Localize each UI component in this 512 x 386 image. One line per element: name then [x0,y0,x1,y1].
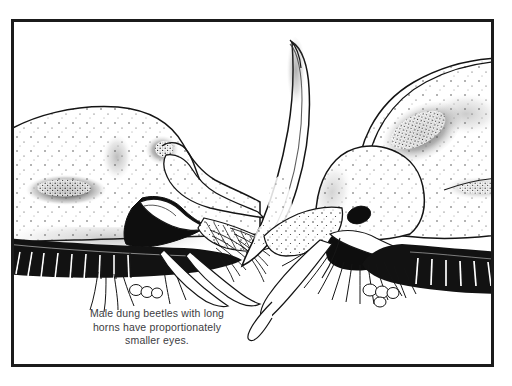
right-beetle-palps [363,284,399,307]
beetle-illustration [14,22,491,364]
right-beetle-tarsus [248,302,272,341]
illustration-frame: Male dung beetles with long horns have p… [11,19,494,367]
right-beetle-group [242,36,491,341]
figure-root: Male dung beetles with long horns have p… [0,0,512,386]
left-beetle-palps [130,285,163,299]
illustration-canvas: Male dung beetles with long horns have p… [14,22,491,364]
left-beetle-group [14,107,270,312]
